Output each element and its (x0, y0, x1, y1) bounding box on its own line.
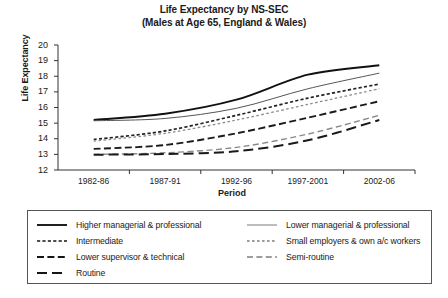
x-axis-tick-label: 1992-96 (197, 177, 277, 186)
legend-line-icon (36, 235, 68, 247)
legend-item-label: Lower managerial & professional (286, 220, 409, 230)
y-axis-tick-label: 14 (28, 134, 48, 143)
y-axis-tick-label: 15 (28, 119, 48, 128)
legend-item-label: Higher managerial & professional (76, 220, 201, 230)
legend-item-label: Small employers & own a/c workers (286, 236, 420, 246)
y-axis-tick-label: 12 (28, 166, 48, 175)
legend-column-left: Higher managerial & professionalIntermed… (36, 217, 236, 281)
legend-line-icon (36, 251, 68, 263)
legend-item[interactable]: Routine (36, 265, 236, 281)
series-line (94, 115, 380, 154)
y-axis-tick-label: 18 (28, 72, 48, 81)
legend-item[interactable]: Higher managerial & professional (36, 217, 236, 233)
legend-item-label: Intermediate (76, 236, 123, 246)
y-axis-tick-label: 19 (28, 56, 48, 65)
series-line (94, 120, 380, 155)
x-axis-tick-label: 1982-86 (54, 177, 134, 186)
legend-line-icon (246, 219, 278, 231)
x-axis-tick-label: 2002-06 (339, 177, 419, 186)
legend-item[interactable]: Lower managerial & professional (246, 217, 436, 233)
legend-line-icon (36, 219, 68, 231)
legend-item-label: Lower supervisor & technical (76, 252, 184, 262)
legend-item[interactable]: Small employers & own a/c workers (246, 233, 436, 249)
legend: Higher managerial & professionalIntermed… (27, 210, 432, 284)
legend-item-label: Semi-routine (286, 252, 334, 262)
plot-area (0, 0, 448, 200)
y-axis-tick-label: 20 (28, 41, 48, 50)
x-axis-title: Period (47, 188, 417, 198)
y-axis-tick-label: 17 (28, 87, 48, 96)
y-axis-tick-label: 13 (28, 150, 48, 159)
legend-line-icon (36, 267, 68, 279)
legend-line-icon (246, 251, 278, 263)
legend-item[interactable]: Lower supervisor & technical (36, 249, 236, 265)
chart-page: Life Expectancy by NS-SEC (Males at Age … (0, 0, 448, 298)
x-axis-tick-label: 1997-2001 (268, 177, 348, 186)
legend-column-right: Lower managerial & professionalSmall emp… (246, 217, 436, 265)
legend-item-label: Routine (76, 268, 105, 278)
series-line (94, 73, 380, 121)
legend-item[interactable]: Semi-routine (246, 249, 436, 265)
x-axis-tick-label: 1987-91 (125, 177, 205, 186)
legend-item[interactable]: Intermediate (36, 233, 236, 249)
legend-line-icon (246, 235, 278, 247)
y-axis-tick-label: 16 (28, 103, 48, 112)
